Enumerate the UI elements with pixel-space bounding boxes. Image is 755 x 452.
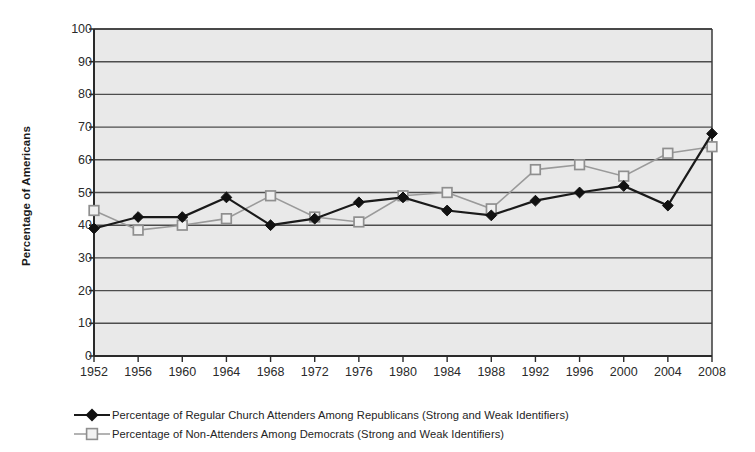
open-square-marker-icon <box>72 425 112 443</box>
legend-item-label: Percentage of Regular Church Attenders A… <box>112 409 569 421</box>
data-point-marker <box>354 217 364 227</box>
legend-item: Percentage of Non-Attenders Among Democr… <box>72 424 732 443</box>
chart-figure: Percentage of Americans 0102030405060708… <box>0 0 755 452</box>
data-point-marker <box>266 191 276 201</box>
data-point-marker <box>133 225 143 235</box>
data-point-marker <box>222 214 232 224</box>
legend-item-label: Percentage of Non-Attenders Among Democr… <box>112 428 504 440</box>
plot-area <box>0 0 755 452</box>
data-point-marker <box>89 206 99 216</box>
data-point-marker <box>531 165 541 175</box>
data-point-marker <box>707 142 717 152</box>
data-point-marker <box>663 148 673 158</box>
data-point-marker <box>442 188 452 198</box>
data-point-marker <box>619 171 629 181</box>
chart-legend: Percentage of Regular Church Attenders A… <box>72 405 732 443</box>
legend-item: Percentage of Regular Church Attenders A… <box>72 405 732 424</box>
data-point-marker <box>575 160 585 170</box>
filled-diamond-marker-icon <box>72 406 112 424</box>
